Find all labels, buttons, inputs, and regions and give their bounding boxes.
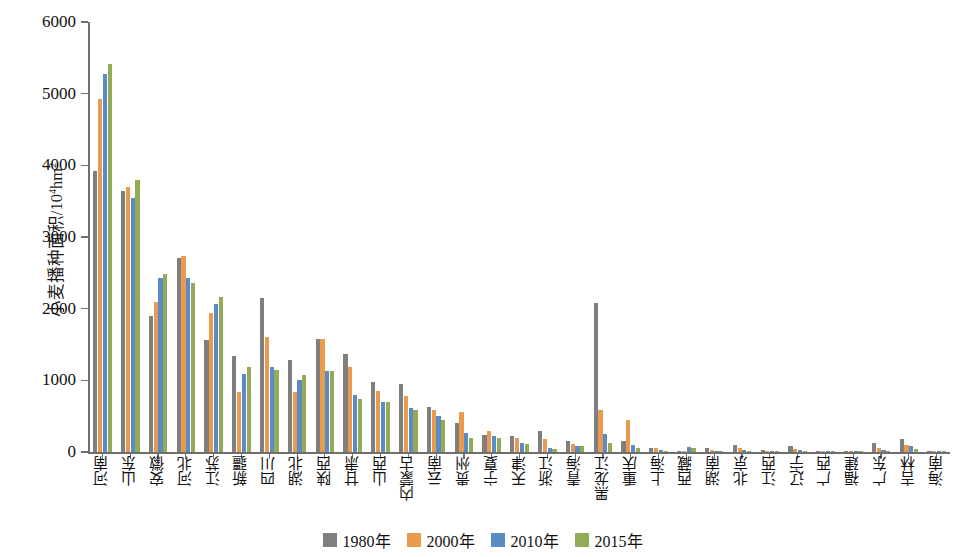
bar[interactable] <box>510 436 514 452</box>
bar[interactable] <box>469 438 473 452</box>
bar[interactable] <box>135 180 139 452</box>
bar[interactable] <box>209 313 213 452</box>
bar[interactable] <box>909 446 913 452</box>
bar[interactable] <box>654 448 658 452</box>
bar[interactable] <box>288 360 292 452</box>
bar[interactable] <box>854 451 858 452</box>
bar[interactable] <box>455 423 459 452</box>
bar[interactable] <box>177 258 181 452</box>
bar[interactable] <box>844 451 848 452</box>
bar[interactable] <box>932 451 936 452</box>
bar[interactable] <box>942 451 946 452</box>
bar[interactable] <box>348 367 352 452</box>
legend-item[interactable]: 2010年 <box>491 528 559 552</box>
bar[interactable] <box>376 391 380 452</box>
legend-item[interactable]: 1980年 <box>323 528 391 552</box>
bar[interactable] <box>158 278 162 452</box>
bar[interactable] <box>849 451 853 452</box>
bar[interactable] <box>710 450 714 453</box>
bar[interactable] <box>621 441 625 452</box>
bar[interactable] <box>427 407 431 452</box>
bar[interactable] <box>831 451 835 452</box>
bar[interactable] <box>877 448 881 452</box>
bar[interactable] <box>761 450 765 452</box>
bar[interactable] <box>826 451 830 452</box>
bar[interactable] <box>343 354 347 452</box>
bar[interactable] <box>687 447 691 452</box>
bar[interactable] <box>126 187 130 452</box>
bar[interactable] <box>441 420 445 452</box>
bar[interactable] <box>927 451 931 452</box>
bar[interactable] <box>515 438 519 452</box>
bar[interactable] <box>270 367 274 452</box>
bar[interactable] <box>566 441 570 452</box>
bar[interactable] <box>788 446 792 452</box>
bar[interactable] <box>413 410 417 452</box>
bar[interactable] <box>186 278 190 452</box>
bar[interactable] <box>404 396 408 452</box>
bar[interactable] <box>386 402 390 452</box>
bar[interactable] <box>320 339 324 452</box>
bar[interactable] <box>900 439 904 452</box>
bar[interactable] <box>548 448 552 452</box>
bar[interactable] <box>154 302 158 453</box>
bar[interactable] <box>705 448 709 452</box>
bar[interactable] <box>409 408 413 452</box>
bar[interactable] <box>399 384 403 452</box>
bar[interactable] <box>316 339 320 452</box>
bar[interactable] <box>659 450 663 452</box>
bar[interactable] <box>497 438 501 452</box>
bar[interactable] <box>181 256 185 452</box>
bar[interactable] <box>937 451 941 452</box>
bar[interactable] <box>793 449 797 452</box>
bar[interactable] <box>821 451 825 452</box>
bar[interactable] <box>552 449 556 452</box>
bar[interactable] <box>626 420 630 452</box>
bar[interactable] <box>214 304 218 452</box>
bar[interactable] <box>580 446 584 452</box>
bar[interactable] <box>381 402 385 452</box>
bar[interactable] <box>571 444 575 452</box>
bar[interactable] <box>121 191 125 452</box>
legend-item[interactable]: 2015年 <box>575 528 643 552</box>
bar[interactable] <box>371 382 375 452</box>
bar[interactable] <box>714 451 718 452</box>
bar[interactable] <box>775 451 779 452</box>
bar[interactable] <box>538 431 542 452</box>
bar[interactable] <box>816 451 820 452</box>
bar[interactable] <box>191 283 195 452</box>
bar[interactable] <box>598 410 602 452</box>
bar[interactable] <box>325 371 329 452</box>
bar[interactable] <box>649 448 653 452</box>
bar[interactable] <box>293 392 297 452</box>
bar[interactable] <box>237 392 241 452</box>
bar[interactable] <box>881 450 885 453</box>
bar[interactable] <box>330 371 334 452</box>
bar[interactable] <box>858 451 862 452</box>
bar[interactable] <box>719 451 723 452</box>
bar[interactable] <box>914 449 918 452</box>
bar[interactable] <box>738 448 742 452</box>
legend-item[interactable]: 2000年 <box>407 528 475 552</box>
bar[interactable] <box>103 74 107 452</box>
bar[interactable] <box>631 445 635 452</box>
bar[interactable] <box>93 171 97 452</box>
bar[interactable] <box>747 451 751 452</box>
bar[interactable] <box>886 451 890 452</box>
bar[interactable] <box>603 434 607 452</box>
bar[interactable] <box>242 374 246 452</box>
bar[interactable] <box>482 435 486 452</box>
bar[interactable] <box>265 337 269 452</box>
bar[interactable] <box>464 433 468 452</box>
bar[interactable] <box>765 451 769 452</box>
bar[interactable] <box>131 198 135 452</box>
bar[interactable] <box>108 64 112 452</box>
bar[interactable] <box>872 443 876 452</box>
bar[interactable] <box>260 298 264 452</box>
bar[interactable] <box>691 448 695 452</box>
bar[interactable] <box>232 356 236 452</box>
bar[interactable] <box>297 380 301 452</box>
bar[interactable] <box>608 443 612 452</box>
bar[interactable] <box>803 451 807 452</box>
bar[interactable] <box>353 395 357 452</box>
